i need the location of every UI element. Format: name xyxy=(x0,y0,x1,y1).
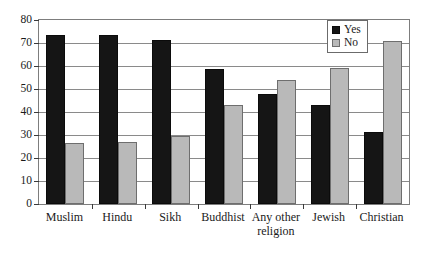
y-axis-tick-label: 30 xyxy=(21,129,33,141)
grouped-bar-chart: 01020304050607080 MuslimHinduSikhBuddhis… xyxy=(0,0,421,254)
y-axis-tick xyxy=(34,20,39,21)
y-axis-tick-label: 20 xyxy=(21,152,33,164)
y-axis-tick xyxy=(34,135,39,136)
bar-no xyxy=(277,80,296,204)
legend-item: Yes xyxy=(332,23,361,36)
legend-item: No xyxy=(332,36,361,49)
y-axis-tick-label: 60 xyxy=(21,60,33,72)
x-axis-category-label: Sikh xyxy=(159,211,181,225)
bar-no xyxy=(224,105,243,204)
y-axis-tick-label: 80 xyxy=(21,14,33,26)
x-axis-category-label: Buddhist xyxy=(201,211,244,225)
x-axis-tick xyxy=(145,204,146,209)
x-axis-tick xyxy=(356,204,357,209)
legend: Yes No xyxy=(327,20,368,53)
bar-no xyxy=(65,143,84,204)
bar-yes xyxy=(258,94,277,204)
x-axis-category-label: Hindu xyxy=(102,211,132,225)
y-axis-tick-label: 10 xyxy=(21,175,33,187)
y-axis-tick xyxy=(34,112,39,113)
gridline xyxy=(39,66,409,67)
y-axis-tick-label: 40 xyxy=(21,106,33,118)
bar-yes xyxy=(364,132,383,204)
y-axis-tick-label: 0 xyxy=(26,198,32,210)
bar-yes xyxy=(152,40,171,204)
bar-no xyxy=(171,136,190,204)
y-axis-tick-label: 50 xyxy=(21,83,33,95)
bar-no xyxy=(118,142,137,204)
x-axis-category-label: Christian xyxy=(360,211,404,225)
bar-no xyxy=(383,41,402,204)
x-axis-tick xyxy=(250,204,251,209)
y-axis-tick xyxy=(34,66,39,67)
gridline xyxy=(39,89,409,90)
x-axis-category-label: Jewish xyxy=(312,211,345,225)
y-axis-tick xyxy=(34,89,39,90)
y-axis-tick xyxy=(34,43,39,44)
bar-yes xyxy=(99,35,118,204)
legend-label-no: No xyxy=(344,37,358,49)
x-axis-category-label: Muslim xyxy=(46,211,83,225)
x-axis-tick xyxy=(92,204,93,209)
x-axis-category-label: Any other religion xyxy=(252,211,300,238)
bar-no xyxy=(330,68,349,204)
bar-yes xyxy=(46,35,65,204)
y-axis-tick xyxy=(34,158,39,159)
legend-label-yes: Yes xyxy=(344,24,361,36)
bar-yes xyxy=(311,105,330,204)
legend-swatch-yes-icon xyxy=(332,26,340,34)
bar-yes xyxy=(205,69,224,204)
x-axis-tick xyxy=(303,204,304,209)
y-axis-tick xyxy=(34,204,39,205)
legend-swatch-no-icon xyxy=(332,39,340,47)
y-axis-tick-label: 70 xyxy=(21,37,33,49)
y-axis-tick xyxy=(34,181,39,182)
x-axis-tick xyxy=(198,204,199,209)
